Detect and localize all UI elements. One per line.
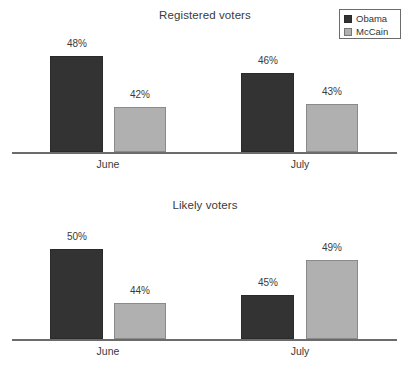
bar-obama-june [50,56,103,152]
legend-swatch-obama-icon [344,15,352,23]
bar-mccain-june [114,303,166,339]
bar-value-obama-june: 50% [51,231,103,242]
bar-value-mccain-july: 43% [306,86,358,97]
bar-value-obama-july: 45% [242,277,294,288]
bar-obama-july [241,295,294,339]
bar-mccain-july [306,104,358,152]
bar-value-obama-june: 48% [51,38,103,49]
legend-label-obama: Obama [356,14,387,24]
chart-panel-likely-voters: Likely voters 50% 44% June 45% 49% July [0,190,410,374]
x-tick-label-july: July [270,345,330,357]
bar-value-mccain-july: 49% [306,242,358,253]
x-tick-label-june: June [78,345,138,357]
bar-mccain-july [306,260,358,339]
x-tick-label-july: July [270,158,330,170]
bar-value-obama-july: 46% [242,55,294,66]
bar-obama-june [50,249,103,339]
x-axis-line [12,152,397,154]
bar-mccain-june [114,107,166,152]
chart-legend: Obama McCain [339,9,401,39]
legend-swatch-mccain-icon [344,28,352,36]
plot-area-likely-voters: 50% 44% June 45% 49% July [0,190,410,374]
chart-panel-registered-voters: Registered voters 48% 42% June 46% 43% J… [0,0,410,190]
legend-entry-obama: Obama [344,13,396,24]
legend-label-mccain: McCain [356,27,388,37]
x-axis-line [12,339,397,341]
x-tick-label-june: June [78,158,138,170]
bar-value-mccain-june: 42% [114,89,166,100]
legend-entry-mccain: McCain [344,26,396,37]
bar-obama-july [241,73,294,152]
bar-value-mccain-june: 44% [114,285,166,296]
